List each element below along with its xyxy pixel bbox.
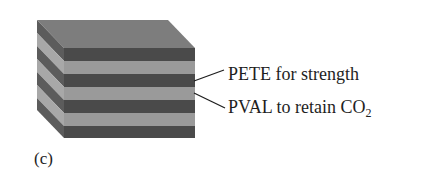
pete-leader-line (194, 70, 224, 81)
pval-layer (64, 113, 195, 126)
pete-layer (64, 126, 195, 138)
pval-label-text: PVAL to retain CO (228, 97, 366, 117)
pete-label: PETE for strength (228, 65, 359, 83)
pete-layer (64, 74, 195, 87)
panel-label: (c) (34, 150, 53, 167)
pval-leader-line (194, 93, 225, 108)
block-front-face (64, 48, 195, 138)
pete-label-text: PETE for strength (228, 64, 359, 84)
multilayer-bottle-wall-diagram: PETE for strength PVAL to retain CO2 (c) (0, 0, 438, 174)
pete-layer (64, 48, 195, 61)
layered-block-illustration (0, 0, 438, 174)
pete-layer (64, 100, 195, 113)
block-top-face (37, 20, 195, 48)
pval-label-subscript: 2 (366, 106, 372, 120)
pval-layer (64, 87, 195, 100)
pval-label: PVAL to retain CO2 (228, 98, 372, 116)
pval-layer (64, 61, 195, 74)
